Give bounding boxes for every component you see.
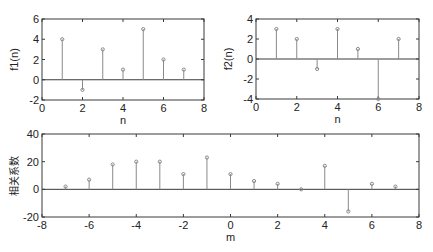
y-tick-label: -2 — [243, 73, 253, 85]
x-axis-label: n — [120, 114, 126, 126]
x-tick-label: 0 — [253, 101, 259, 113]
x-tick-label: 0 — [39, 102, 45, 114]
stem-marker — [394, 185, 397, 188]
x-tick-label: 0 — [227, 219, 233, 231]
y-axis-label: f1(n) — [8, 48, 20, 71]
x-tick-label: 6 — [375, 101, 381, 113]
x-tick-label: -4 — [131, 219, 141, 231]
figure: 02468-20246nf1(n) 02468-4-2024nf2(n) -8-… — [0, 0, 433, 252]
x-tick-label: 8 — [416, 101, 422, 113]
y-tick-label: 0 — [33, 183, 39, 195]
y-tick-label: 0 — [247, 53, 253, 65]
y-tick-label: 40 — [27, 128, 39, 140]
y-tick-label: 20 — [27, 156, 39, 168]
x-tick-label: -2 — [178, 219, 188, 231]
x-tick-label: -6 — [84, 219, 94, 231]
y-tick-label: 6 — [33, 13, 39, 25]
stem-marker — [276, 182, 279, 185]
stem-marker — [252, 179, 255, 182]
y-tick-label: 4 — [247, 13, 253, 25]
stem-marker — [323, 164, 326, 167]
y-tick-label: 0 — [33, 74, 39, 86]
x-axis-label: m — [226, 231, 235, 243]
x-tick-label: 6 — [160, 102, 166, 114]
stem-marker — [158, 160, 161, 163]
x-tick-label: 2 — [294, 101, 300, 113]
x-tick-label: 8 — [416, 219, 422, 231]
stem-marker — [135, 160, 138, 163]
f2-stem-plot: 02468-4-2024nf2(n) — [222, 13, 422, 125]
f1-stem-plot: 02468-20246nf1(n) — [8, 13, 207, 126]
y-tick-label: 2 — [247, 33, 253, 45]
y-tick-label: -4 — [243, 93, 253, 105]
x-tick-label: 8 — [201, 102, 207, 114]
x-tick-label: 2 — [275, 219, 281, 231]
x-axis-label: n — [334, 113, 340, 125]
stem-marker — [111, 163, 114, 166]
x-tick-label: 4 — [322, 219, 328, 231]
y-axis-label: 相关系数 — [8, 156, 20, 196]
x-tick-label: 4 — [334, 101, 340, 113]
y-tick-label: -20 — [23, 211, 39, 223]
cross-correlation-stem-plot: -8-6-4-202468-2002040m相关系数 — [8, 128, 422, 243]
stem-marker — [370, 182, 373, 185]
y-tick-label: -2 — [29, 94, 39, 106]
axes-box — [42, 19, 204, 100]
y-tick-label: 4 — [33, 33, 39, 45]
y-axis-label: f2(n) — [222, 48, 234, 71]
x-tick-label: 4 — [120, 102, 126, 114]
x-tick-label: 2 — [79, 102, 85, 114]
stem-marker — [64, 185, 67, 188]
y-tick-label: 2 — [33, 54, 39, 66]
x-tick-label: 6 — [369, 219, 375, 231]
